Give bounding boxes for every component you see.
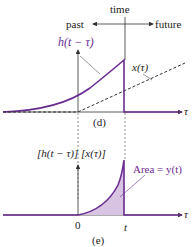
future-label: future	[155, 19, 181, 30]
past-label: past	[66, 19, 84, 30]
h-label: h(t − τ)	[58, 36, 94, 48]
zero-label: 0	[75, 220, 81, 231]
t-label: t	[124, 222, 127, 233]
product-label: [h(t − τ)] [x(τ)]	[37, 148, 106, 159]
e-axis-label: τ	[184, 209, 188, 220]
area-label: Area = y(t)	[133, 164, 182, 175]
time-label: time	[110, 4, 130, 15]
x-label: x(τ)	[132, 62, 148, 73]
caption-d: (d)	[93, 117, 106, 128]
caption-e: (e)	[92, 235, 104, 246]
h-curve	[3, 60, 182, 112]
x-leader	[143, 74, 152, 80]
h-leader	[80, 56, 100, 74]
d-axis-label: τ	[184, 106, 188, 117]
